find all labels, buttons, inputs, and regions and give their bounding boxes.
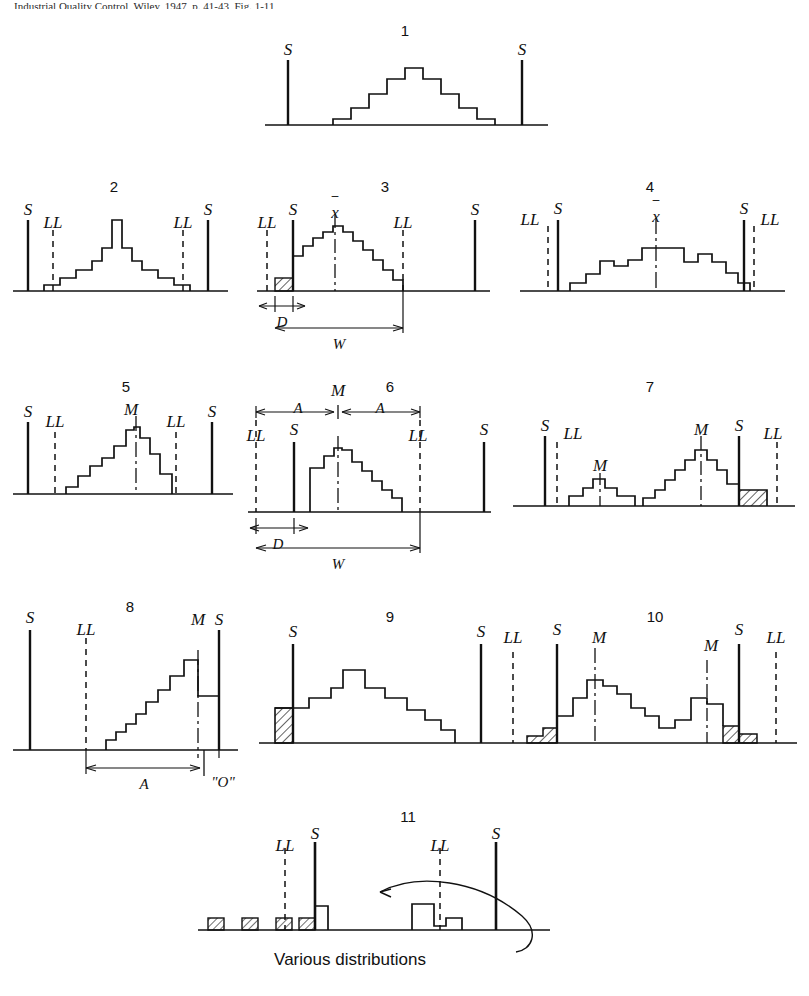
figure-5-label-s-left: S (24, 402, 33, 422)
figure-6-label-ll-left: LL (247, 426, 266, 446)
figure-3-label-s-left: S (289, 200, 298, 220)
figure-3-dim-d: D (277, 314, 288, 331)
figure-11-label-ll-left: LL (276, 836, 295, 856)
figure-5-label-m: M (124, 400, 138, 420)
figure-8-label-ll: LL (77, 620, 96, 640)
figure-10-label-s-left: S (553, 620, 562, 640)
figure-10-number: 10 (647, 608, 664, 625)
figure-10-label-ll-right: LL (767, 628, 786, 648)
figure-11-label-s-right: S (492, 824, 501, 844)
figure-3-label-s-right: S (471, 200, 480, 220)
figure-7-label-s-right: S (735, 416, 744, 436)
figure-8-label-zero: "O" (211, 774, 234, 791)
figure-11-caption: Various distributions (274, 950, 426, 970)
figure-6-dim-w: W (332, 556, 345, 573)
figure-1-label-s-left: S (284, 40, 293, 60)
figure-9-label-s-right: S (477, 622, 486, 642)
figure-page: Industrial Quality Control, Wiley, 1947,… (0, 0, 809, 996)
figure-10-label-m-right: M (704, 636, 718, 656)
figure-11-label-ll-right: LL (431, 836, 450, 856)
figure-5-label-ll-right: LL (167, 412, 186, 432)
figure-3-label-ll-left: LL (258, 213, 277, 233)
figure-1: 1 S S (255, 22, 555, 132)
figure-3: 3 LL S ̅̅ x LL S (255, 178, 495, 343)
figure-6-dim-a-right: A (375, 400, 384, 417)
figure-6-label-s-left: S (290, 420, 299, 440)
figure-2: 2 S LL LL S (8, 178, 233, 298)
figure-3-dim-w: W (333, 336, 346, 353)
figure-10-label-ll-left: LL (504, 628, 523, 648)
figure-7-label-ll-right: LL (764, 424, 783, 444)
figure-8-label-s-right: S (215, 610, 224, 630)
figure-3-label-ll-right: LL (394, 213, 413, 233)
figure-7: 7 S LL M M S LL (505, 378, 805, 513)
figure-2-label-s-right: S (204, 200, 213, 220)
figure-5-number: 5 (122, 378, 130, 395)
figure-11: 11 LL S LL S Various distributions (150, 808, 560, 988)
running-header: Industrial Quality Control, Wiley, 1947,… (14, 0, 714, 9)
figure-9: 9 S S (255, 608, 505, 753)
figure-8-dim-a: A (139, 776, 148, 793)
figure-9-label-s-left: S (289, 622, 298, 642)
figure-3-number: 3 (381, 178, 389, 195)
figure-6-number: 6 (386, 378, 394, 395)
figure-11-number: 11 (400, 808, 416, 825)
figure-10: 10 LL S M M S LL (495, 608, 805, 753)
figure-7-plot (505, 378, 805, 513)
figure-10-label-s-right: S (735, 620, 744, 640)
figure-8-label-s-left: S (26, 608, 35, 628)
figure-2-number: 2 (110, 178, 118, 195)
figure-6-label-ll-right: LL (409, 426, 428, 446)
figure-5-label-s-right: S (208, 402, 217, 422)
figure-6-plot (246, 378, 496, 558)
figure-4: 4 LL S ̅̅ x S LL (510, 178, 800, 298)
figure-6-label-m: M (331, 381, 345, 401)
figure-8-number: 8 (126, 598, 134, 615)
figure-7-label-m-left: M (593, 456, 607, 476)
figure-4-label-xbarbar: ̅̅ x (652, 207, 660, 227)
figure-4-plot (510, 178, 800, 298)
figure-6-label-s-right: S (480, 420, 489, 440)
figure-2-label-ll-left: LL (44, 213, 63, 233)
figure-2-label-ll-right: LL (174, 213, 193, 233)
figure-4-label-ll-left: LL (521, 210, 540, 230)
figure-10-plot (495, 608, 805, 753)
figure-10-label-m-left: M (592, 628, 606, 648)
figure-4-label-s-left: S (554, 199, 563, 219)
figure-8: 8 S LL M S A "O" (8, 598, 258, 798)
figure-1-number: 1 (401, 22, 409, 39)
figure-11-label-s-left: S (311, 824, 320, 844)
figure-5-label-ll-left: LL (46, 412, 65, 432)
figure-7-label-m-right: M (694, 420, 708, 440)
figure-6-dim-d: D (273, 536, 284, 553)
figure-8-label-m: M (191, 610, 205, 630)
figure-1-label-s-right: S (518, 40, 527, 60)
figure-2-label-s-left: S (24, 200, 33, 220)
figure-6: 6 M A A LL S LL S (246, 378, 496, 558)
figure-6-dim-a-left: A (293, 400, 302, 417)
figure-4-label-s-right: S (740, 199, 749, 219)
figure-4-label-ll-right: LL (761, 210, 780, 230)
figure-7-label-s-left: S (541, 416, 550, 436)
figure-3-label-xbarbar: ̅̅ x (331, 203, 339, 223)
figure-5-plot (8, 378, 238, 503)
figure-7-number: 7 (646, 378, 654, 395)
figure-5: 5 S LL M LL S (8, 378, 238, 503)
figure-7-label-ll-left: LL (564, 424, 583, 444)
figure-4-number: 4 (646, 178, 654, 195)
figure-2-plot (8, 178, 233, 298)
figure-9-number: 9 (386, 608, 394, 625)
